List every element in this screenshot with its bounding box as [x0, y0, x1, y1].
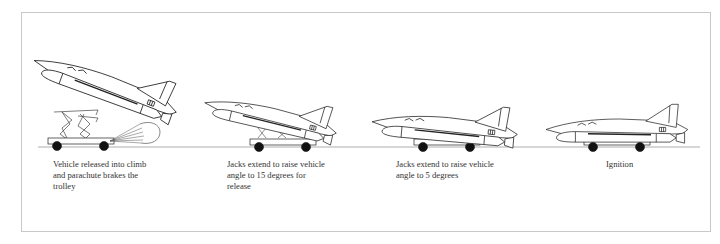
stage-4-aircraft [546, 104, 688, 143]
launch-sequence-illustration [0, 0, 720, 244]
stage-1-jacks [54, 110, 98, 140]
stage-2-aircraft [202, 79, 342, 145]
parachute [110, 122, 160, 143]
caption-stage-3: Jacks extend to raise vehicle angle to 5… [396, 159, 536, 181]
caption-stage-4: Ignition [606, 159, 666, 170]
stage-1-aircraft [29, 35, 185, 126]
caption-stage-2: Jacks extend to raise vehicle angle to 1… [227, 159, 367, 192]
stage-3-aircraft [371, 96, 520, 149]
caption-stage-1: Vehicle released into climb and parachut… [53, 159, 183, 192]
